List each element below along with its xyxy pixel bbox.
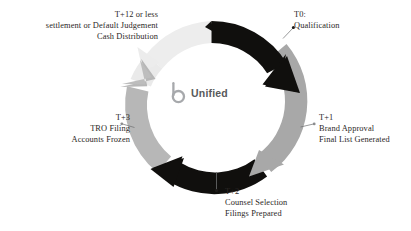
logo-wordmark: Unified [191,87,228,99]
stage-label-t3-line-1: T+3 [16,112,130,123]
stage-label-t12-line-3: Cash Distribution [6,31,158,42]
stage-label-t2-line-2: Counsel Selection [225,197,335,208]
stage-label-t1-line-2: Brand Approval [319,123,411,134]
stage-label-t3: T+3 TRO Filing Accounts Frozen [16,112,130,146]
unified-b-logo-mark-icon [170,82,187,104]
stage-label-t12: T+12 or less settlement or Default Judge… [6,9,158,43]
stage-label-t2-line-1: T+2 [225,186,335,197]
stage-label-t1-line-3: Final List Generated [319,134,411,145]
diagram-canvas: Unified T+12 or less settlement or Defau… [0,0,411,231]
stage-label-t2-line-3: Filings Prepared [225,208,335,219]
stage-label-t3-line-2: TRO Filing [16,123,130,134]
stage-label-t0-line-2: Qualification [294,20,404,31]
center-logo: Unified [170,80,254,106]
stage-label-t1: T+1 Brand Approval Final List Generated [319,112,411,146]
stage-label-t2: T+2 Counsel Selection Filings Prepared [225,186,335,220]
stage-label-t12-line-2: settlement or Default Judgement [6,20,158,31]
stage-label-t3-line-3: Accounts Frozen [16,134,130,145]
stage-label-t1-line-1: T+1 [319,112,411,123]
stage-label-t12-line-1: T+12 or less [6,9,158,20]
stage-label-t0: T0: Qualification [294,9,404,31]
stage-label-t0-line-1: T0: [294,9,404,20]
